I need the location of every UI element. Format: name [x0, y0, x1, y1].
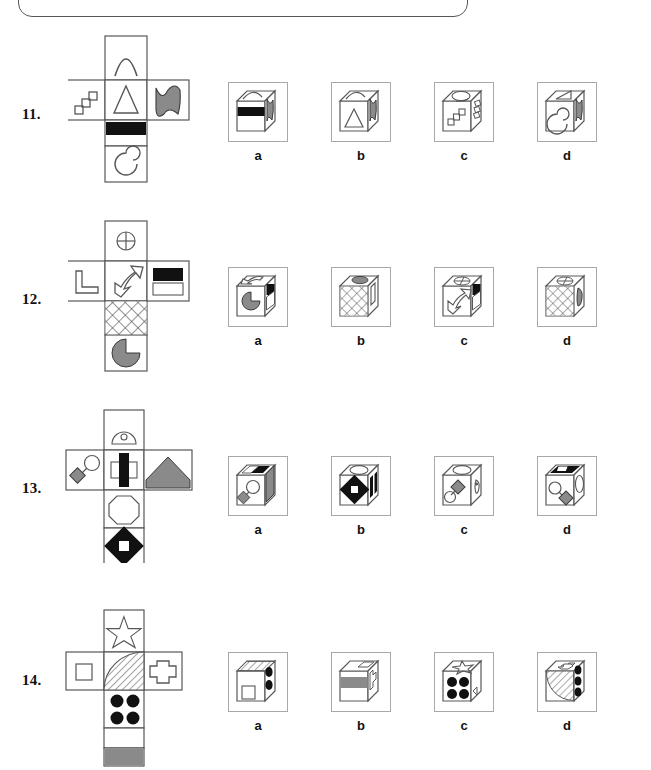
option-13-d[interactable] [537, 456, 597, 516]
option-11-d[interactable] [537, 82, 597, 142]
option-label-12-b: b [331, 333, 391, 348]
question-row-11: 11. [0, 30, 651, 215]
option-11-b[interactable] [331, 82, 391, 142]
option-13-a[interactable] [228, 456, 288, 516]
option-14-d[interactable] [537, 652, 597, 712]
option-label-12-c: c [434, 333, 494, 348]
question-number-13: 13. [22, 480, 42, 497]
option-12-a[interactable] [228, 267, 288, 327]
option-label-11-a: a [228, 148, 288, 163]
question-number-14: 14. [22, 672, 42, 689]
option-label-12-a: a [228, 333, 288, 348]
option-label-13-c: c [434, 522, 494, 537]
question-number-12: 12. [22, 291, 42, 308]
option-11-c[interactable] [434, 82, 494, 142]
option-label-12-d: d [537, 333, 597, 348]
question-row-12: 12. [0, 215, 651, 400]
option-14-a[interactable] [228, 652, 288, 712]
option-label-13-d: d [537, 522, 597, 537]
option-label-11-d: d [537, 148, 597, 163]
option-13-c[interactable] [434, 456, 494, 516]
option-label-14-a: a [228, 718, 288, 733]
cube-net-13 [62, 408, 202, 563]
test-page: 11. [0, 0, 651, 770]
option-label-14-d: d [537, 718, 597, 733]
rounded-panel-bottom-edge [18, 0, 468, 17]
option-12-b[interactable] [331, 267, 391, 327]
question-row-14: 14. [0, 592, 651, 770]
option-label-13-a: a [228, 522, 288, 537]
option-label-14-c: c [434, 718, 494, 733]
option-14-c[interactable] [434, 652, 494, 712]
option-12-c[interactable] [434, 267, 494, 327]
cube-net-11 [68, 34, 198, 184]
option-12-d[interactable] [537, 267, 597, 327]
question-number-11: 11. [22, 106, 41, 123]
option-label-11-b: b [331, 148, 391, 163]
option-label-14-b: b [331, 718, 391, 733]
option-13-b[interactable] [331, 456, 391, 516]
option-11-a[interactable] [228, 82, 288, 142]
option-label-11-c: c [434, 148, 494, 163]
question-row-13: 13. [0, 404, 651, 589]
option-label-13-b: b [331, 522, 391, 537]
cube-net-14 [62, 608, 202, 768]
cube-net-12 [68, 219, 198, 374]
option-14-b[interactable] [331, 652, 391, 712]
